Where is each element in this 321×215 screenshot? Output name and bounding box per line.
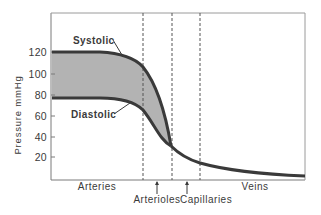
region-arteries: Arteries bbox=[78, 181, 116, 192]
region-veins: Veins bbox=[242, 181, 269, 192]
systolic-label: Systolic bbox=[73, 35, 115, 46]
blood-pressure-diagram: 120 100 80 60 40 20 Pressure mmHg Systol… bbox=[0, 0, 321, 215]
region-capillaries: Capillaries bbox=[180, 194, 232, 205]
y-axis-label: Pressure mmHg bbox=[12, 75, 23, 154]
arterioles-arrow-icon bbox=[155, 181, 159, 194]
mean-pressure-curve bbox=[171, 146, 305, 176]
region-arterioles: Arterioles bbox=[133, 194, 180, 205]
y-tick-60: 60 bbox=[35, 110, 47, 122]
diastolic-label: Diastolic bbox=[71, 109, 116, 120]
y-tick-100: 100 bbox=[29, 68, 47, 80]
y-tick-120: 120 bbox=[29, 46, 47, 58]
diastolic-leader bbox=[114, 103, 130, 114]
capillaries-arrow-icon bbox=[185, 181, 189, 194]
y-tick-80: 80 bbox=[35, 89, 47, 101]
y-tick-20: 20 bbox=[35, 151, 47, 163]
y-tick-40: 40 bbox=[35, 131, 47, 143]
